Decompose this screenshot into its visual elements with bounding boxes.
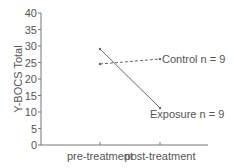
ytick-10: 10 <box>25 106 37 118</box>
ytick-30: 30 <box>25 40 37 52</box>
chart: 0 5 10 15 20 25 30 35 40 Y-BOCS Total pr… <box>0 0 234 168</box>
exposure-label: Exposure n = 9 <box>150 108 224 120</box>
ytick-35: 35 <box>25 24 37 36</box>
exposure-line <box>100 49 160 108</box>
x-label-pre: pre-treatment <box>67 150 133 162</box>
x-label-post: post-treatment <box>125 150 196 162</box>
control-label: Control n = 9 <box>162 53 225 65</box>
ytick-5: 5 <box>31 123 37 135</box>
ytick-15: 15 <box>25 90 37 102</box>
ytick-20: 20 <box>25 73 37 85</box>
y-axis-label: Y-BOCS Total <box>12 45 24 112</box>
y-ticks <box>38 13 160 145</box>
ytick-0: 0 <box>31 139 37 151</box>
control-line <box>100 59 160 64</box>
ytick-40: 40 <box>25 7 37 19</box>
ytick-25: 25 <box>25 57 37 69</box>
